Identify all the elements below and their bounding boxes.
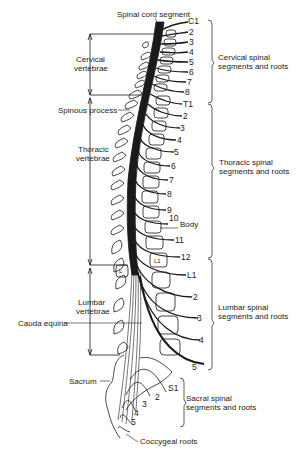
sacral-group-label-1: Sacral spinal	[186, 394, 232, 403]
thoracic-group-label-1: Thoracic spinal	[219, 158, 273, 167]
root-l4: 4	[199, 336, 204, 345]
cervical-group-label-2: segments and roots	[218, 62, 288, 71]
cervical-vertebrae-label-1: Cervical	[76, 55, 105, 64]
root-t12: 12	[181, 253, 190, 262]
inner-l-label: L	[119, 267, 122, 276]
root-c6: 6	[189, 68, 194, 77]
lumbar-vertebrae-label-1: Lumbar	[78, 298, 105, 307]
cauda-equina-label: Cauda equina	[18, 319, 68, 328]
sacral-group-label-2: segments and roots	[186, 403, 256, 412]
root-t3: 3	[180, 124, 185, 133]
cervical-vertebrae-label-2: vertebrae	[74, 64, 108, 73]
root-c2: 2	[189, 28, 194, 37]
lumbar-vertebrae-label-2: vertebrae	[76, 307, 110, 316]
root-c8: 8	[185, 88, 190, 97]
lumbar-group-label-1: Lumbar spinal	[218, 303, 268, 312]
root-l5: 5	[192, 363, 197, 372]
root-l2: 2	[193, 293, 198, 302]
root-s5: 5	[131, 418, 136, 427]
body-label: Body	[180, 220, 198, 229]
lumbar-group-label-2: segments and roots	[218, 312, 288, 321]
root-c5: 5	[189, 58, 194, 67]
root-t10: 10	[169, 214, 178, 223]
root-t6: 6	[171, 162, 176, 171]
root-t5: 5	[174, 148, 179, 157]
root-c4: 4	[189, 48, 194, 57]
root-t8: 8	[167, 190, 172, 199]
cervical-group-label-1: Cervical spinal	[218, 53, 270, 62]
thoracic-group-label-2: segments and roots	[219, 167, 289, 176]
spinal-cord-segment-label: Spinal cord segment	[117, 10, 190, 19]
coccygeal-roots-label: Coccygeal roots	[140, 437, 197, 446]
root-c7: 7	[187, 78, 192, 87]
root-l3: 3	[197, 314, 202, 323]
root-s3: 3	[142, 400, 147, 409]
root-t11: 11	[175, 236, 184, 245]
root-c1: C1	[188, 17, 199, 26]
thoracic-vertebrae-label-1: Thoracic	[78, 145, 109, 154]
root-l1: L1	[187, 271, 196, 280]
root-t1: T1	[183, 100, 193, 109]
sacrum-label: Sacrum	[69, 377, 97, 386]
root-t4: 4	[177, 136, 182, 145]
inner-l1-label: L1	[154, 257, 161, 266]
thoracic-vertebrae-label-2: vertebrae	[76, 154, 110, 163]
root-c3: 3	[189, 38, 194, 47]
root-s2: 2	[155, 393, 160, 402]
root-t2: 2	[183, 112, 188, 121]
spinous-process-label: Spinous process	[58, 106, 117, 115]
root-t7: 7	[169, 176, 174, 185]
root-s1: S1	[168, 384, 178, 393]
